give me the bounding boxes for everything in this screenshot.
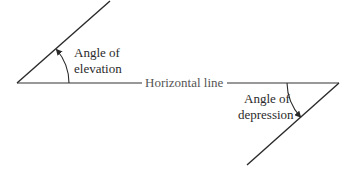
depression-label-line1: Angle of [244,91,291,106]
depression-label-line2: depression [238,107,294,122]
elevation-label-line1: Angle of [74,45,121,60]
elevation-label-line2: elevation [74,61,122,76]
angles-diagram: Angle of elevation Horizontal line Angle… [0,0,357,178]
elevation-angle-arc [57,50,70,84]
horizontal-line-label: Horizontal line [145,75,224,90]
